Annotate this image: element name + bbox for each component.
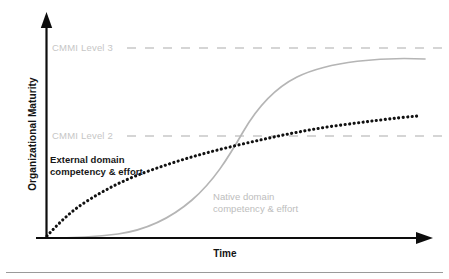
gridline-label-cmmi-level-2: CMMI Level 2 [52, 130, 113, 142]
y-axis-arrow-icon [41, 12, 52, 28]
chart-figure: CMMI Level 3 CMMI Level 2 External domai… [0, 0, 449, 279]
series-annotation-native-domain: Native domaincompetency & effort [213, 191, 298, 216]
native-annotation-line-1: Native domain [213, 191, 274, 202]
x-axis-arrow-icon [416, 232, 433, 244]
external-annotation-line-1: External domain [50, 154, 125, 165]
y-axis-title: Organizational Maturity [27, 54, 39, 214]
series-annotation-external-domain: External domaincompetency & effort [50, 154, 143, 179]
footer-divider [6, 272, 443, 273]
native-annotation-line-2: competency & effort [213, 203, 298, 214]
x-axis-title: Time [165, 248, 285, 260]
external-annotation-line-2: competency & effort [50, 166, 143, 177]
gridline-label-cmmi-level-3: CMMI Level 3 [52, 42, 113, 54]
